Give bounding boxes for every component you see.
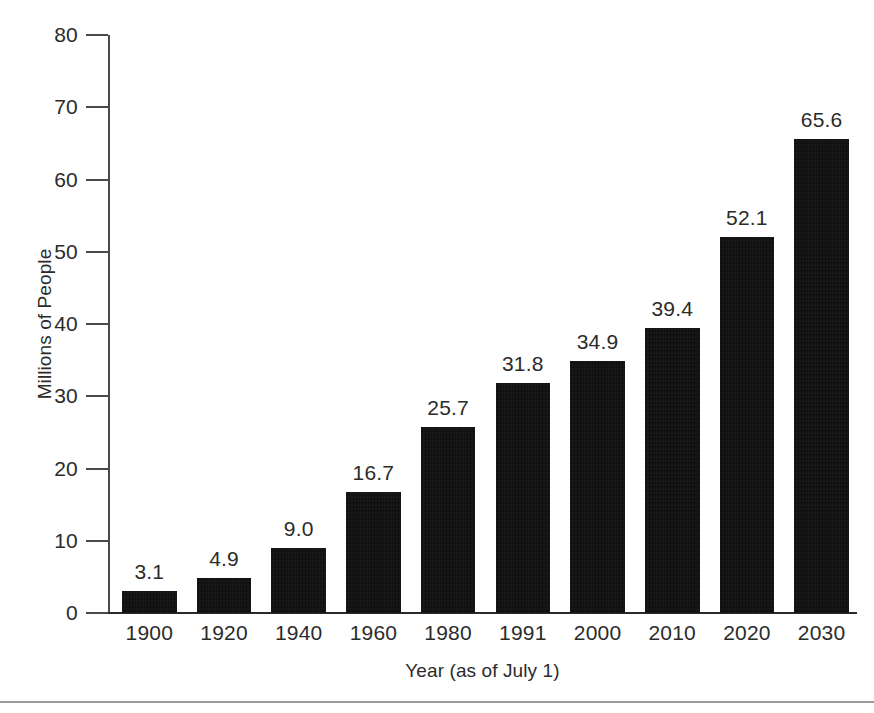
bar <box>122 591 177 613</box>
y-axis-tick <box>86 540 108 542</box>
plot-area <box>108 35 855 613</box>
x-axis-tick-label: 1940 <box>259 621 338 645</box>
bar <box>794 139 849 613</box>
bar-value-label: 52.1 <box>704 206 791 230</box>
bottom-divider-rule <box>0 701 874 703</box>
y-axis-tick-label: 40 <box>0 312 78 336</box>
bar-chart-figure: Millions of People 01020304050607080 190… <box>0 0 874 713</box>
y-axis-tick-label: 10 <box>0 529 78 553</box>
bar-value-label: 65.6 <box>778 108 865 132</box>
y-axis-tick <box>86 251 108 253</box>
y-axis-tick-label: 0 <box>0 601 78 625</box>
y-axis-tick-label: 30 <box>0 384 78 408</box>
x-axis-tick-label: 2030 <box>782 621 861 645</box>
x-axis-title: Year (as of July 1) <box>108 660 857 682</box>
y-axis-tick-label: 80 <box>0 23 78 47</box>
x-axis-tick-label: 1920 <box>185 621 264 645</box>
bar <box>197 578 252 613</box>
bar <box>346 492 401 613</box>
x-axis-tick-label: 1980 <box>409 621 488 645</box>
bar <box>421 427 476 613</box>
bar-value-label: 4.9 <box>181 547 268 571</box>
bar-value-label: 9.0 <box>255 517 342 541</box>
x-axis-tick-label: 1900 <box>110 621 189 645</box>
x-axis-tick-label: 1991 <box>484 621 563 645</box>
y-axis-tick <box>86 106 108 108</box>
y-axis-tick <box>86 612 108 614</box>
bar-value-label: 3.1 <box>106 560 193 584</box>
x-axis-tick-label: 1960 <box>334 621 413 645</box>
bar <box>645 328 700 613</box>
x-axis-tick-label: 2020 <box>708 621 787 645</box>
bar <box>496 383 551 613</box>
bar <box>720 237 775 613</box>
x-axis-tick-label: 2010 <box>633 621 712 645</box>
bar-value-label: 25.7 <box>405 396 492 420</box>
bar-value-label: 31.8 <box>480 352 567 376</box>
y-axis-tick <box>86 34 108 36</box>
bar-value-label: 39.4 <box>629 297 716 321</box>
y-axis-tick <box>86 395 108 397</box>
bar-value-label: 34.9 <box>554 330 641 354</box>
y-axis-tick <box>86 468 108 470</box>
x-axis-tick-label: 2000 <box>558 621 637 645</box>
bar-value-label: 16.7 <box>330 461 417 485</box>
y-axis-tick <box>86 179 108 181</box>
y-axis-tick-label: 70 <box>0 95 78 119</box>
bar <box>271 548 326 613</box>
y-axis-tick-label: 20 <box>0 457 78 481</box>
bar <box>570 361 625 613</box>
y-axis-tick <box>86 323 108 325</box>
y-axis-tick-label: 60 <box>0 168 78 192</box>
y-axis-tick-label: 50 <box>0 240 78 264</box>
